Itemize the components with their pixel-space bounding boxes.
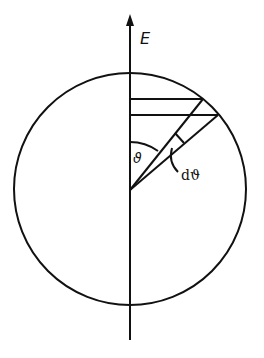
arc-width-tick [175,133,184,143]
axis-label: E [140,29,151,48]
ray-theta-plus-dtheta [130,115,218,190]
angle-label: ϑ [133,150,142,166]
sphere-zone-diagram: E ϑ dϑ [0,0,264,358]
differential-angle-label: dϑ [181,167,200,183]
axis-arrowhead-icon [126,14,134,26]
